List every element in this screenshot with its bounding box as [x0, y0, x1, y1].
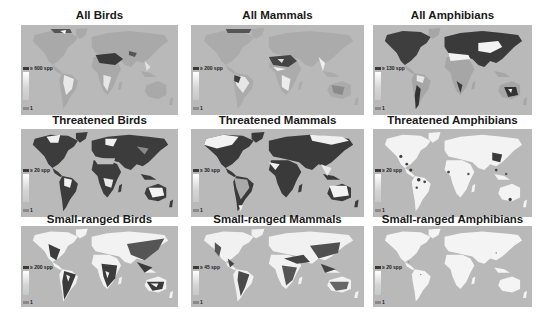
- legend-min-label: 1: [30, 105, 33, 111]
- panel-all-mammals: All Mammals ≥ 200 spp 1: [191, 9, 364, 115]
- panel-title: Small-ranged Birds: [21, 213, 178, 225]
- panel-title: Threatened Birds: [21, 114, 178, 126]
- legend-max-label: ≥ 130 spp: [382, 65, 405, 71]
- panel-threatened-amphibians: Threatened Amphibians ≥ 20 spp 1: [373, 114, 532, 217]
- panel-small-ranged-amphibians: Small-ranged Amphibians ≥ 20 spp 1: [373, 213, 532, 307]
- richness-map: ≥ 130 spp 1: [373, 25, 532, 115]
- legend-min-label: 1: [200, 105, 203, 111]
- panel-all-amphibians: All Amphibians ≥ 130 spp 1: [373, 9, 532, 115]
- legend-max-label: ≥ 600 spp: [30, 65, 53, 71]
- panel-threatened-mammals: Threatened Mammals ≥ 30 spp 1: [191, 114, 364, 217]
- legend-min-label: 1: [200, 299, 203, 305]
- richness-map: ≥ 20 spp 1: [373, 129, 532, 217]
- richness-map: ≥ 30 spp 1: [191, 129, 364, 217]
- richness-map: ≥ 45 spp 1: [191, 226, 364, 307]
- legend-max-label: ≥ 30 spp: [200, 167, 220, 173]
- legend-max-label: ≥ 20 spp: [30, 167, 50, 173]
- panel-title: Small-ranged Amphibians: [373, 213, 532, 225]
- legend-max-label: ≥ 200 spp: [200, 65, 223, 71]
- richness-map: ≥ 20 spp 1: [21, 129, 178, 217]
- panel-title: Threatened Mammals: [191, 114, 364, 126]
- panel-title: Small-ranged Mammals: [191, 213, 364, 225]
- legend-max-label: ≥ 20 spp: [382, 167, 402, 173]
- panel-title: All Amphibians: [373, 9, 532, 21]
- panel-threatened-birds: Threatened Birds ≥ 20 spp 1: [21, 114, 178, 217]
- legend-max-label: ≥ 45 spp: [200, 264, 220, 270]
- legend-min-label: 1: [382, 299, 385, 305]
- legend-max-label: ≥ 20 spp: [382, 264, 402, 270]
- richness-map: ≥ 600 spp 1: [21, 25, 178, 115]
- panel-small-ranged-mammals: Small-ranged Mammals ≥ 45 spp 1: [191, 213, 364, 307]
- legend-min-label: 1: [30, 299, 33, 305]
- panel-all-birds: All Birds ≥ 600 spp 1: [21, 9, 178, 115]
- richness-map: ≥ 20 spp 1: [373, 226, 532, 307]
- legend-max-label: ≥ 200 spp: [30, 264, 53, 270]
- richness-map: ≥ 200 spp 1: [21, 226, 178, 307]
- panel-title: All Birds: [21, 9, 178, 21]
- panel-title: All Mammals: [191, 9, 364, 21]
- richness-map: ≥ 200 spp 1: [191, 25, 364, 115]
- panel-title: Threatened Amphibians: [373, 114, 532, 126]
- panel-small-ranged-birds: Small-ranged Birds ≥ 200 spp 1: [21, 213, 178, 307]
- legend-min-label: 1: [382, 105, 385, 111]
